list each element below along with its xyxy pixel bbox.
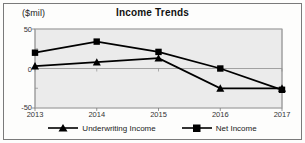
x-tick-label-2015: 2015	[139, 110, 179, 119]
plot-area	[0, 0, 305, 143]
data-point-square	[32, 50, 38, 56]
data-point-square	[217, 65, 223, 71]
x-tick-label-2013: 2013	[15, 110, 55, 119]
x-tick-label-2016: 2016	[200, 110, 240, 119]
triangle-marker	[48, 123, 78, 133]
x-tick-label-2017: 2017	[262, 110, 302, 119]
legend-entry-underwriting-income: Underwriting Income	[48, 123, 155, 133]
data-point-square	[94, 38, 100, 44]
legend-entry-net-income: Net Income	[182, 123, 257, 133]
chart-legend: Underwriting Income Net Income	[0, 123, 305, 133]
legend-label-underwriting-income: Underwriting Income	[82, 124, 155, 133]
chart-figure: ($mil) Income Trends 50 0 -50 2013201420…	[0, 0, 305, 143]
square-marker	[182, 123, 212, 133]
x-tick-label-2014: 2014	[77, 110, 117, 119]
data-point-square	[155, 49, 161, 55]
legend-label-net-income: Net Income	[216, 124, 257, 133]
data-point-square	[279, 87, 285, 93]
